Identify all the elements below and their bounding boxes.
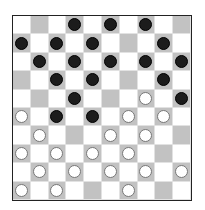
black-checker-piece[interactable] xyxy=(33,55,46,68)
black-checker-piece[interactable] xyxy=(175,55,188,68)
white-checker-piece[interactable] xyxy=(15,147,28,160)
board-square-r8-c9[interactable] xyxy=(173,163,191,181)
board-square-r8-c3[interactable] xyxy=(66,163,84,181)
black-checker-piece[interactable] xyxy=(86,37,99,50)
board-square-r9-c2[interactable] xyxy=(49,182,67,200)
board-square-r7-c2[interactable] xyxy=(49,145,67,163)
white-checker-piece[interactable] xyxy=(157,110,170,123)
board-square-r3-c4[interactable] xyxy=(84,71,102,89)
board-square-r5-c8[interactable] xyxy=(155,108,173,126)
board-square-r5-c6[interactable] xyxy=(120,108,138,126)
board-square-r8-c6 xyxy=(120,163,138,181)
board-square-r6-c1[interactable] xyxy=(31,126,49,144)
board-square-r3-c9 xyxy=(173,71,191,89)
white-checker-piece[interactable] xyxy=(15,110,28,123)
board-square-r5-c0[interactable] xyxy=(13,108,31,126)
board-square-r6-c3[interactable] xyxy=(66,126,84,144)
black-checker-piece[interactable] xyxy=(104,55,117,68)
board-square-r7-c8[interactable] xyxy=(155,145,173,163)
board-square-r4-c1[interactable] xyxy=(31,90,49,108)
white-checker-piece[interactable] xyxy=(33,165,46,178)
board-square-r2-c3[interactable] xyxy=(66,53,84,71)
board-square-r2-c9[interactable] xyxy=(173,53,191,71)
black-checker-piece[interactable] xyxy=(86,110,99,123)
board-square-r1-c2[interactable] xyxy=(49,34,67,52)
board-square-r2-c0 xyxy=(13,53,31,71)
white-checker-piece[interactable] xyxy=(139,92,152,105)
board-square-r9-c8[interactable] xyxy=(155,182,173,200)
board-square-r4-c6 xyxy=(120,90,138,108)
black-checker-piece[interactable] xyxy=(157,73,170,86)
board-square-r2-c7[interactable] xyxy=(138,53,156,71)
white-checker-piece[interactable] xyxy=(33,129,46,142)
white-checker-piece[interactable] xyxy=(122,184,135,197)
board-square-r3-c0[interactable] xyxy=(13,71,31,89)
white-checker-piece[interactable] xyxy=(122,110,135,123)
board-square-r1-c7 xyxy=(138,34,156,52)
board-square-r3-c2[interactable] xyxy=(49,71,67,89)
board-square-r7-c6[interactable] xyxy=(120,145,138,163)
board-square-r0-c3[interactable] xyxy=(66,16,84,34)
board-square-r4-c3[interactable] xyxy=(66,90,84,108)
board-square-r4-c9[interactable] xyxy=(173,90,191,108)
board-square-r6-c6 xyxy=(120,126,138,144)
board-square-r6-c7[interactable] xyxy=(138,126,156,144)
white-checker-piece[interactable] xyxy=(139,165,152,178)
white-checker-piece[interactable] xyxy=(122,147,135,160)
board-square-r6-c2 xyxy=(49,126,67,144)
board-square-r7-c4[interactable] xyxy=(84,145,102,163)
black-checker-piece[interactable] xyxy=(68,18,81,31)
checkers-board[interactable] xyxy=(12,15,192,201)
white-checker-piece[interactable] xyxy=(50,147,63,160)
board-square-r2-c1[interactable] xyxy=(31,53,49,71)
board-square-r8-c5[interactable] xyxy=(102,163,120,181)
board-square-r1-c4[interactable] xyxy=(84,34,102,52)
black-checker-piece[interactable] xyxy=(139,18,152,31)
board-square-r5-c2[interactable] xyxy=(49,108,67,126)
black-checker-piece[interactable] xyxy=(15,37,28,50)
board-square-r1-c8[interactable] xyxy=(155,34,173,52)
board-square-r7-c7 xyxy=(138,145,156,163)
white-checker-piece[interactable] xyxy=(104,165,117,178)
white-checker-piece[interactable] xyxy=(104,129,117,142)
white-checker-piece[interactable] xyxy=(68,165,81,178)
black-checker-piece[interactable] xyxy=(68,92,81,105)
board-square-r9-c4[interactable] xyxy=(84,182,102,200)
black-checker-piece[interactable] xyxy=(139,55,152,68)
board-square-r1-c0[interactable] xyxy=(13,34,31,52)
board-square-r8-c1[interactable] xyxy=(31,163,49,181)
black-checker-piece[interactable] xyxy=(68,55,81,68)
white-checker-piece[interactable] xyxy=(139,129,152,142)
black-checker-piece[interactable] xyxy=(104,18,117,31)
board-square-r3-c6[interactable] xyxy=(120,71,138,89)
black-checker-piece[interactable] xyxy=(50,110,63,123)
board-square-r0-c5[interactable] xyxy=(102,16,120,34)
board-square-r3-c8[interactable] xyxy=(155,71,173,89)
board-square-r0-c1[interactable] xyxy=(31,16,49,34)
board-square-r2-c5[interactable] xyxy=(102,53,120,71)
black-checker-piece[interactable] xyxy=(86,73,99,86)
board-square-r5-c4[interactable] xyxy=(84,108,102,126)
board-square-r6-c8 xyxy=(155,126,173,144)
board-square-r4-c5[interactable] xyxy=(102,90,120,108)
white-checker-piece[interactable] xyxy=(50,184,63,197)
black-checker-piece[interactable] xyxy=(50,37,63,50)
black-checker-piece[interactable] xyxy=(50,73,63,86)
black-checker-piece[interactable] xyxy=(157,37,170,50)
white-checker-piece[interactable] xyxy=(175,165,188,178)
white-checker-piece[interactable] xyxy=(86,147,99,160)
board-square-r4-c7[interactable] xyxy=(138,90,156,108)
white-checker-piece[interactable] xyxy=(15,184,28,197)
board-square-r0-c7[interactable] xyxy=(138,16,156,34)
board-square-r0-c9[interactable] xyxy=(173,16,191,34)
board-square-r9-c0[interactable] xyxy=(13,182,31,200)
board-square-r8-c4 xyxy=(84,163,102,181)
board-square-r6-c5[interactable] xyxy=(102,126,120,144)
board-square-r6-c9[interactable] xyxy=(173,126,191,144)
board-square-r2-c8 xyxy=(155,53,173,71)
board-square-r7-c0[interactable] xyxy=(13,145,31,163)
board-square-r8-c7[interactable] xyxy=(138,163,156,181)
black-checker-piece[interactable] xyxy=(175,92,188,105)
board-square-r1-c6[interactable] xyxy=(120,34,138,52)
board-square-r9-c6[interactable] xyxy=(120,182,138,200)
